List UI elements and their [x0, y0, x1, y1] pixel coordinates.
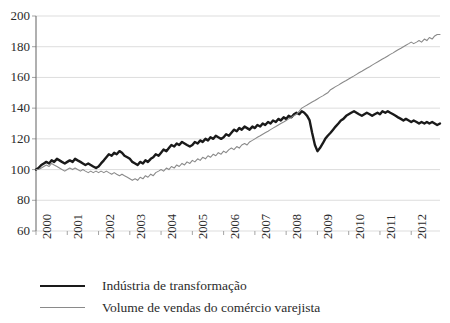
legend-line-swatch-industry	[40, 285, 85, 287]
x-tick-2008: 2008	[291, 214, 304, 239]
chart-legend: Indústria de transformação Volume de ven…	[0, 276, 450, 323]
x-tick-2000: 2000	[41, 214, 54, 239]
legend-label-retail: Volume de vendas do comércio varejista	[102, 298, 320, 318]
y-tick-80: 80	[0, 193, 30, 206]
x-tick-2011: 2011	[385, 214, 398, 239]
x-tick-2003: 2003	[135, 214, 148, 239]
y-tick-200: 200	[0, 9, 30, 22]
plot-area: 6080100120140160180200 20002001200220032…	[0, 0, 450, 250]
y-tick-60: 60	[0, 224, 30, 237]
y-tick-140: 140	[0, 101, 30, 114]
y-tick-100: 100	[0, 163, 30, 176]
x-tick-2007: 2007	[260, 214, 273, 239]
x-tick-2010: 2010	[354, 214, 367, 239]
x-tick-2006: 2006	[229, 214, 242, 239]
legend-line-swatch-retail	[40, 307, 85, 308]
x-tick-2001: 2001	[72, 214, 85, 239]
chart-svg	[0, 0, 450, 250]
y-tick-160: 160	[0, 70, 30, 83]
chart-container: 6080100120140160180200 20002001200220032…	[0, 0, 450, 323]
x-tick-2004: 2004	[166, 214, 179, 239]
x-tick-2012: 2012	[416, 214, 429, 239]
x-tick-2009: 2009	[322, 214, 335, 239]
y-tick-180: 180	[0, 40, 30, 53]
series-line-industry	[36, 111, 440, 169]
legend-label-industry: Indústria de transformação	[102, 276, 247, 296]
x-tick-2002: 2002	[104, 214, 117, 239]
series-line-retail	[36, 34, 440, 180]
x-tick-2005: 2005	[197, 214, 210, 239]
y-tick-120: 120	[0, 132, 30, 145]
